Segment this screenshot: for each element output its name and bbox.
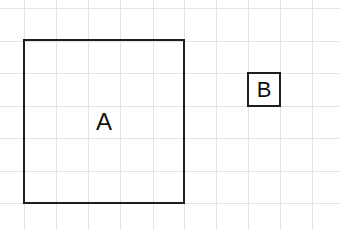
grid-line-horizontal	[0, 8, 340, 9]
grid-line-vertical	[216, 0, 217, 230]
grid-line-vertical	[248, 0, 249, 230]
square-a[interactable]: A	[23, 39, 185, 204]
grid-line-vertical	[312, 0, 313, 230]
grid-line-vertical	[280, 0, 281, 230]
square-b[interactable]: B	[247, 72, 281, 107]
diagram-canvas: A B	[0, 0, 340, 230]
square-b-label: B	[257, 79, 272, 101]
square-a-label: A	[96, 110, 112, 134]
